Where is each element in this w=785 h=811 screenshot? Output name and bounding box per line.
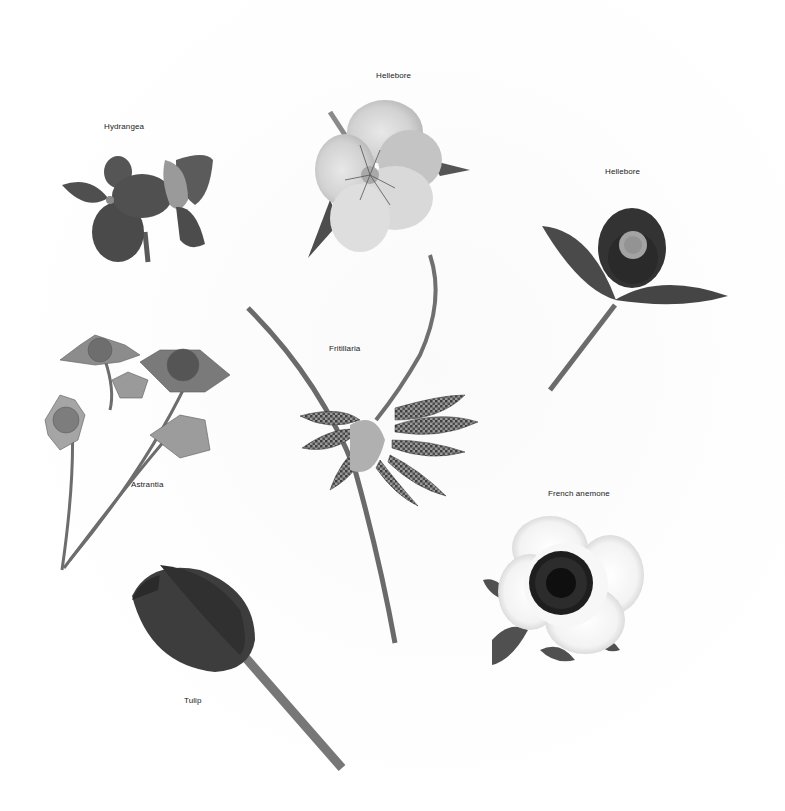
hellebore-top-specimen <box>308 100 470 258</box>
astrantia-specimen <box>45 335 230 570</box>
fritillaria-specimen <box>248 255 478 643</box>
hydrangea-specimen <box>62 155 213 262</box>
label-french-anemone: French anemone <box>548 489 610 498</box>
label-hydrangea: Hydrangea <box>104 122 144 131</box>
label-astrantia: Astrantia <box>131 480 163 489</box>
tulip-specimen <box>132 565 342 768</box>
french-anemone-specimen <box>483 516 644 665</box>
label-hellebore-right: Hellebore <box>605 167 640 176</box>
label-fritillaria: Fritillaria <box>329 344 360 353</box>
label-hellebore-top: Hellebore <box>376 71 411 80</box>
label-tulip: Tulip <box>184 696 202 705</box>
hellebore-right-specimen <box>542 208 728 390</box>
